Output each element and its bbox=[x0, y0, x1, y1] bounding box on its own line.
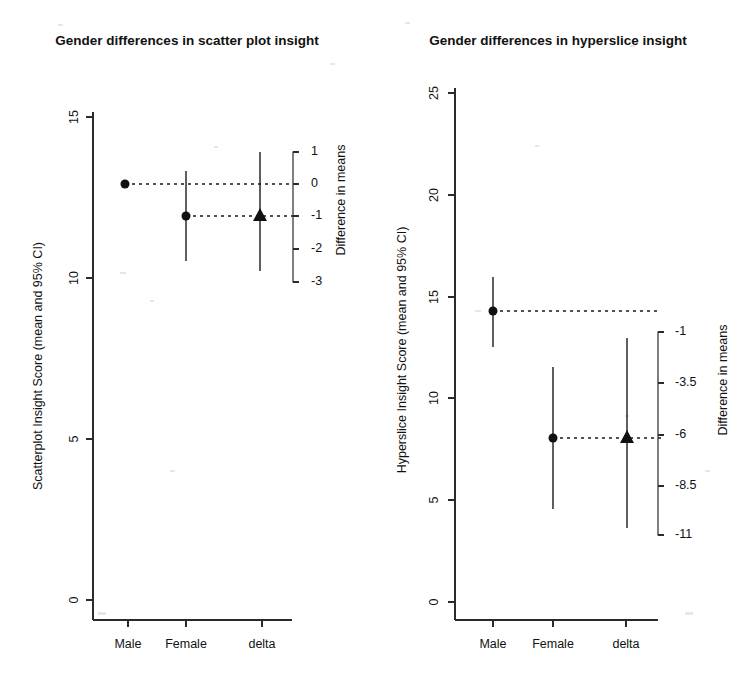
y-tick-label: 25 bbox=[427, 86, 441, 100]
data-point-male-left bbox=[121, 180, 130, 189]
y-tick-label: 0 bbox=[427, 598, 441, 605]
y-axis-title-right: Hyperslice Insight Score (mean and 95% C… bbox=[395, 227, 409, 474]
secondary-tick-label: -11 bbox=[675, 527, 692, 541]
y-tick-label: 20 bbox=[427, 188, 441, 202]
x-tick-label-male: Male bbox=[479, 637, 506, 651]
secondary-axis-title-left: Difference in means bbox=[334, 145, 348, 256]
x-tick-label-delta: delta bbox=[612, 637, 639, 651]
data-point-delta-right bbox=[620, 430, 634, 443]
x-axis-ticks-left: Male Female delta bbox=[114, 620, 275, 651]
y-tick-label: 15 bbox=[427, 290, 441, 304]
y-tick-label: 0 bbox=[67, 596, 81, 603]
secondary-tick-label: -3 bbox=[311, 274, 322, 288]
y-axis-ticks-left: 15 10 5 0 bbox=[67, 110, 93, 603]
secondary-axis-right: -1 -3.5 -6 -8.5 -11 Difference in means bbox=[658, 324, 730, 541]
secondary-tick-label: -3.5 bbox=[675, 375, 697, 389]
secondary-tick-label: -6 bbox=[675, 427, 686, 441]
figure-container: Gender differences in scatter plot insig… bbox=[0, 0, 750, 691]
y-tick-label: 15 bbox=[67, 110, 81, 124]
data-point-male-right bbox=[489, 307, 498, 316]
secondary-axis-title-right: Difference in means bbox=[716, 325, 730, 436]
scatterplot-insight-chart: Gender differences in scatter plot insig… bbox=[0, 0, 375, 691]
secondary-tick-label: -8.5 bbox=[675, 478, 697, 492]
chart-title-right: Gender differences in hyperslice insight bbox=[429, 33, 687, 48]
secondary-tick-label: 1 bbox=[311, 144, 318, 158]
secondary-tick-label: -1 bbox=[311, 208, 322, 222]
secondary-axis-left: 1 0 -1 -2 -3 Difference in means bbox=[293, 144, 348, 288]
x-tick-label-male: Male bbox=[114, 637, 141, 651]
secondary-tick-label: 0 bbox=[311, 176, 318, 190]
x-tick-label-delta: delta bbox=[248, 637, 275, 651]
hyperslice-insight-chart: Gender differences in hyperslice insight… bbox=[375, 0, 750, 691]
y-axis-ticks-right: 25 20 15 10 5 0 bbox=[427, 86, 455, 605]
paper-speckles bbox=[405, 22, 710, 615]
x-axis-ticks-right: Male Female delta bbox=[479, 620, 639, 651]
data-point-female-right bbox=[549, 434, 558, 443]
y-tick-label: 5 bbox=[67, 435, 81, 442]
data-point-female-left bbox=[182, 212, 191, 221]
y-tick-label: 5 bbox=[427, 496, 441, 503]
data-point-delta-left bbox=[253, 208, 267, 221]
y-tick-label: 10 bbox=[427, 391, 441, 405]
secondary-tick-label: -1 bbox=[675, 324, 686, 338]
chart-title-left: Gender differences in scatter plot insig… bbox=[55, 33, 319, 48]
secondary-tick-label: -2 bbox=[311, 241, 322, 255]
y-axis-title-left: Scatterplot Insight Score (mean and 95% … bbox=[31, 242, 45, 490]
paper-speckles bbox=[58, 24, 335, 615]
x-tick-label-female: Female bbox=[532, 637, 574, 651]
x-tick-label-female: Female bbox=[165, 637, 207, 651]
y-tick-label: 10 bbox=[67, 271, 81, 285]
